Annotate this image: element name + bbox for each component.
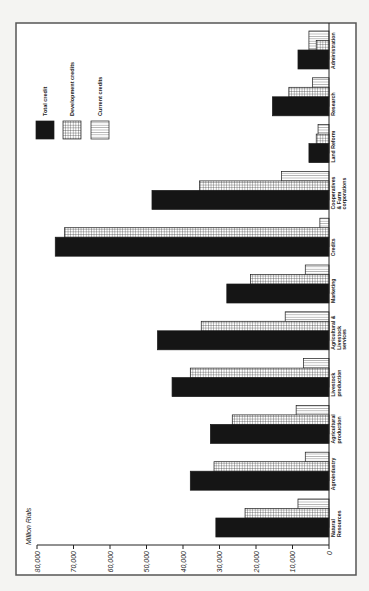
bar-solid	[210, 424, 329, 443]
tick-label: 10,000	[289, 551, 296, 573]
legend-swatch-vertical-lines	[91, 121, 109, 139]
category-label: Research	[330, 92, 336, 115]
category-label: production	[336, 416, 342, 443]
category-label: Agroindustry	[330, 458, 336, 491]
value-axis-title: Million Rials	[25, 507, 32, 545]
legend-swatch-solid	[36, 121, 54, 139]
bar-solid	[272, 97, 329, 116]
category-label: Administration	[330, 32, 336, 69]
bar-solid	[309, 144, 329, 163]
legend-label: Total credit	[42, 87, 48, 116]
bar-solid	[216, 518, 329, 537]
category-label: corporations	[341, 178, 347, 210]
bar-solid	[190, 471, 329, 490]
tick-label: 0	[326, 551, 333, 555]
tick-label: 70,000	[70, 551, 77, 573]
legend-label: Current credits	[97, 77, 103, 116]
category-label: production	[336, 370, 342, 397]
tick-label: 60,000	[107, 551, 114, 573]
bar-solid	[227, 284, 329, 303]
bar-solid	[298, 50, 329, 69]
bar-solid	[157, 331, 329, 350]
category-label: services	[341, 329, 347, 350]
tick-label: 30,000	[216, 551, 223, 573]
tick-label: 40,000	[180, 551, 187, 573]
legend-swatch-grid	[63, 121, 81, 139]
bar-solid	[152, 190, 329, 209]
rotated-grouped-bar-chart: Total creditDevelopment creditsCurrent c…	[0, 0, 369, 591]
bar-solid	[172, 378, 329, 397]
category-label: Credits	[330, 238, 336, 256]
tick-label: 50,000	[143, 551, 150, 573]
tick-label: 80,000	[34, 551, 41, 573]
category-label: Marketing	[330, 278, 336, 303]
tick-label: 20,000	[253, 551, 260, 574]
category-label: Land Reform	[330, 130, 336, 162]
legend-label: Development credits	[69, 62, 75, 116]
bar-solid	[55, 237, 329, 256]
category-label: Resources	[336, 510, 342, 537]
